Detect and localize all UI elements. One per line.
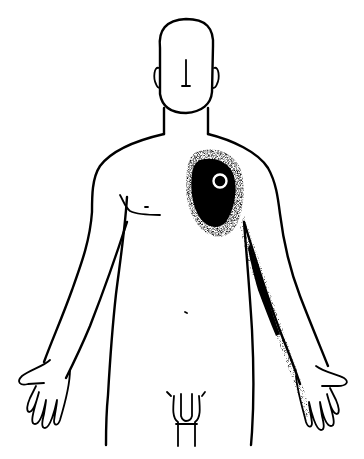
right-ear [213,68,219,88]
nose [182,60,190,86]
figure-canvas: Referred pain pattern diagram Trigger po… [0,0,364,459]
pain-zone-chest [186,149,244,236]
torso [44,108,328,445]
groin [167,392,205,446]
head [154,19,218,113]
body-diagram [0,0,364,459]
navel [185,312,187,313]
left-hand [19,360,70,428]
